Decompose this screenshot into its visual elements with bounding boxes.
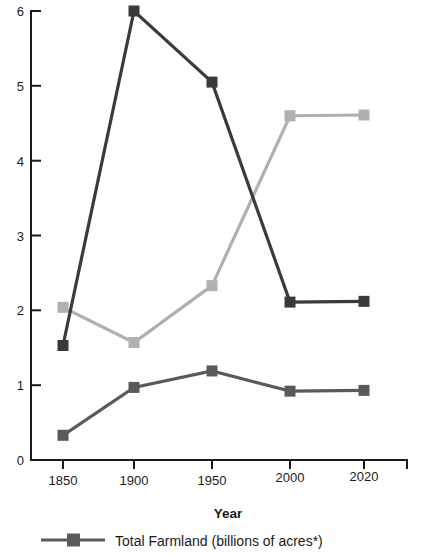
- series-total-farmland: [58, 365, 370, 440]
- y-tick-label-2: 2: [17, 303, 24, 318]
- series-line-dark-series: [63, 11, 364, 346]
- data-point-marker: [207, 77, 218, 88]
- data-point-marker: [58, 340, 69, 351]
- y-tick-label-0: 0: [17, 453, 24, 468]
- data-point-marker: [58, 430, 69, 441]
- y-tick-label-6: 6: [17, 4, 24, 19]
- data-point-marker: [129, 337, 140, 348]
- series-line-total-farmland: [63, 371, 364, 435]
- data-point-marker: [207, 365, 218, 376]
- data-point-marker: [207, 280, 218, 291]
- x-tick-label-1850: 1850: [49, 473, 78, 488]
- data-point-marker: [58, 302, 69, 313]
- series-line-light-series: [63, 115, 364, 342]
- y-tick-label-4: 4: [17, 154, 24, 169]
- legend-label-total-farmland: Total Farmland (billions of acres*): [115, 533, 323, 549]
- data-point-marker: [285, 386, 296, 397]
- legend-marker-swatch: [67, 534, 80, 547]
- series-dark-series: [58, 6, 370, 352]
- y-tick-label-1: 1: [17, 378, 24, 393]
- data-point-marker: [129, 382, 140, 393]
- x-axis-title: Year: [214, 506, 243, 521]
- chart-legend: Total Farmland (billions of acres*): [41, 533, 323, 549]
- chart-canvas: 0 1 2 3 4 5 6 1850 1900 1950 2000 2020 Y…: [0, 0, 427, 557]
- y-axis-ticks: [31, 11, 41, 460]
- data-point-marker: [359, 110, 370, 121]
- data-point-marker: [285, 110, 296, 121]
- data-point-marker: [129, 6, 140, 17]
- y-tick-label-3: 3: [17, 229, 24, 244]
- x-axis-ticks: [63, 460, 407, 469]
- x-tick-label-2020: 2020: [350, 469, 379, 484]
- y-tick-label-5: 5: [17, 79, 24, 94]
- data-point-marker: [359, 385, 370, 396]
- data-point-marker: [285, 297, 296, 308]
- data-point-marker: [359, 296, 370, 307]
- x-tick-label-2000: 2000: [276, 470, 305, 485]
- line-chart: 0 1 2 3 4 5 6 1850 1900 1950 2000 2020 Y…: [0, 0, 427, 557]
- y-tick-labels: 0 1 2 3 4 5 6: [17, 4, 24, 468]
- x-tick-label-1900: 1900: [120, 473, 149, 488]
- x-tick-label-1950: 1950: [198, 473, 227, 488]
- x-tick-labels: 1850 1900 1950 2000 2020: [49, 469, 379, 488]
